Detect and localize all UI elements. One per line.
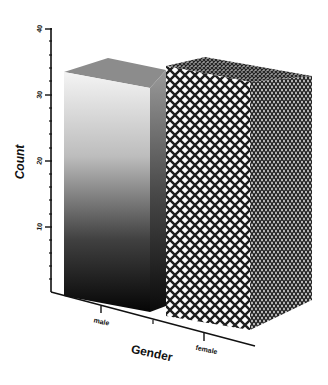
bar-male-front [64,72,150,312]
bar-female-front [166,66,250,330]
bar-male [64,58,166,312]
y-axis: 40 30 20 10 Count [13,24,52,292]
y-tick-label-40: 40 [35,24,43,33]
bar-chart-3d: 40 30 20 10 Count male female Gender [0,0,328,385]
y-tick-label-20: 20 [35,156,43,165]
y-axis-title: Count [13,144,27,180]
x-axis-title: Gender [130,342,174,364]
y-tick-label-30: 30 [35,90,43,99]
y-tick-label-10: 10 [35,222,43,231]
bar-male-side [150,70,166,312]
x-tick-label-male: male [93,316,110,326]
x-tick-label-female: female [195,344,218,355]
bar-female [166,57,312,330]
bar-female-side [250,76,312,330]
